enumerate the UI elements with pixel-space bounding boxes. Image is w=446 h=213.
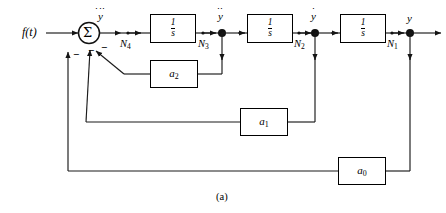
node-label-N4: N4 xyxy=(120,39,131,51)
wire-sum-to-integrator-1 xyxy=(100,31,151,34)
gain-a1-label: a1 xyxy=(259,115,268,129)
feedback-path-a0 xyxy=(68,33,410,171)
block-diagram-figure: 1 s 1 s 1 s a2 a1 a0 f(t) Σ ⋅⋅⋅ y ⋅⋅ xyxy=(0,0,446,213)
node-label-N2: N2 xyxy=(294,39,305,51)
node-label-N3: N3 xyxy=(198,39,209,51)
gain-a2-label: a2 xyxy=(169,67,178,81)
integrator-block-1[interactable]: 1 s xyxy=(150,14,196,43)
signal-label-y-triple-dot: ⋅⋅⋅ y xyxy=(98,11,103,22)
output-signal-label: y xyxy=(407,13,412,24)
input-signal-label: f(t) xyxy=(22,26,37,38)
gain-block-a0[interactable]: a0 xyxy=(338,157,386,185)
gain-a0-label: a0 xyxy=(357,164,366,178)
integrator-1-expression: 1 s xyxy=(171,18,176,39)
gain-block-a2[interactable]: a2 xyxy=(150,60,198,88)
gain-block-a1[interactable]: a1 xyxy=(240,108,288,136)
sign-label-feedback-a0: − xyxy=(73,49,79,60)
wire-integrator-3-to-output xyxy=(386,29,441,37)
integrator-3-expression: 1 s xyxy=(361,18,366,39)
node-label-N1: N1 xyxy=(387,39,398,51)
signal-label-y-double-dot: ⋅⋅ y xyxy=(218,11,223,22)
sign-label-feedback-a1: − xyxy=(88,45,94,56)
summing-junction-symbol: Σ xyxy=(83,26,92,39)
figure-caption: (a) xyxy=(216,192,228,203)
integrator-block-3[interactable]: 1 s xyxy=(340,14,386,43)
integrator-2-expression: 1 s xyxy=(268,18,273,39)
integrator-block-2[interactable]: 1 s xyxy=(247,14,293,43)
sign-label-feedback-a2: − xyxy=(101,42,107,53)
signal-label-y-dot: ⋅ y xyxy=(311,11,316,22)
